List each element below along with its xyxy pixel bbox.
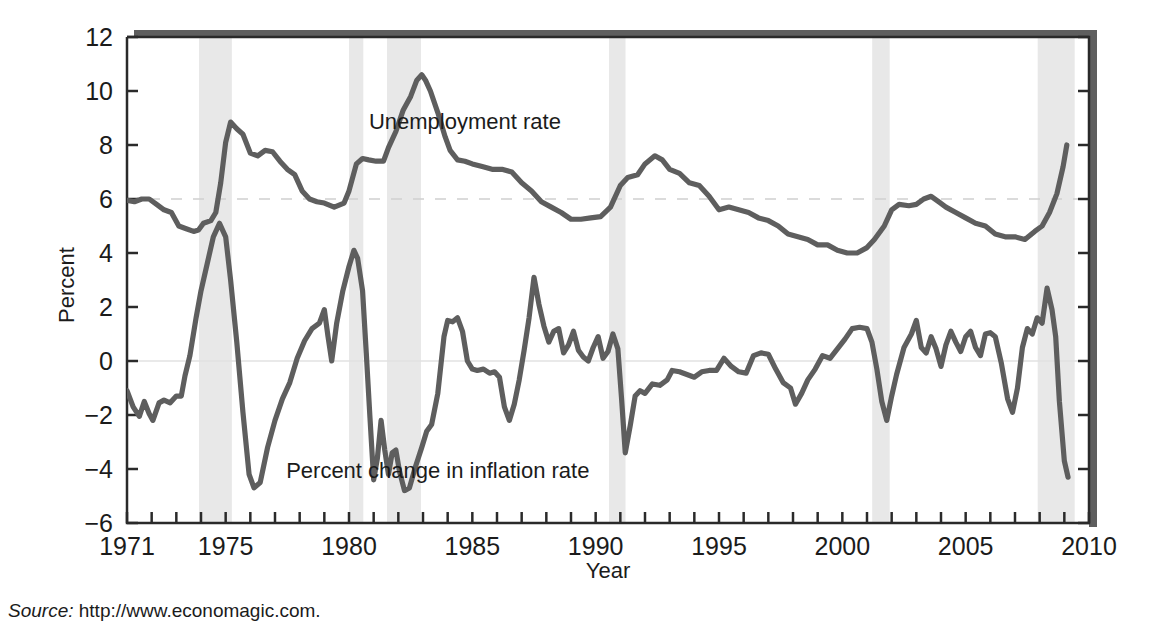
figure-page: −6−4−2024681012 197119751980198519901995… [0,0,1172,639]
source-url: http://www.economagic.com. [79,600,321,621]
y-tick-label: 6 [99,185,113,213]
x-tick-label: 2010 [1061,532,1117,560]
y-tick-label: −2 [84,401,113,429]
y-tick-label: 2 [99,293,113,321]
x-axis-title: Year [586,558,630,583]
plot-area-background [127,37,1089,523]
x-tick-label: 2005 [938,532,994,560]
series-annotation: Unemployment rate [369,109,561,134]
x-tick-label: 2000 [815,532,871,560]
y-tick-label: 10 [85,77,113,105]
recession-band [1038,37,1075,523]
x-tick-label: 1985 [445,532,501,560]
x-axis-tick-labels: 197119751980198519901995200020052010 [99,532,1117,560]
y-tick-label: 0 [99,347,113,375]
economic-line-chart: −6−4−2024681012 197119751980198519901995… [0,0,1172,590]
source-label: Source: [8,600,73,621]
recession-band [872,37,890,523]
x-tick-label: 1975 [198,532,254,560]
series-annotation: Percent change in inflation rate [286,458,589,483]
x-tick-label: 1971 [99,532,155,560]
y-tick-label: 8 [99,131,113,159]
y-axis-tick-labels: −6−4−2024681012 [84,23,113,537]
source-caption: Source: http://www.economagic.com. [8,600,321,622]
y-tick-label: 12 [85,23,113,51]
x-tick-label: 1980 [321,532,377,560]
y-axis-title: Percent [54,247,79,323]
x-tick-label: 1995 [691,532,747,560]
x-tick-label: 1990 [568,532,624,560]
y-tick-label: −4 [84,455,113,483]
y-tick-label: 4 [99,239,113,267]
